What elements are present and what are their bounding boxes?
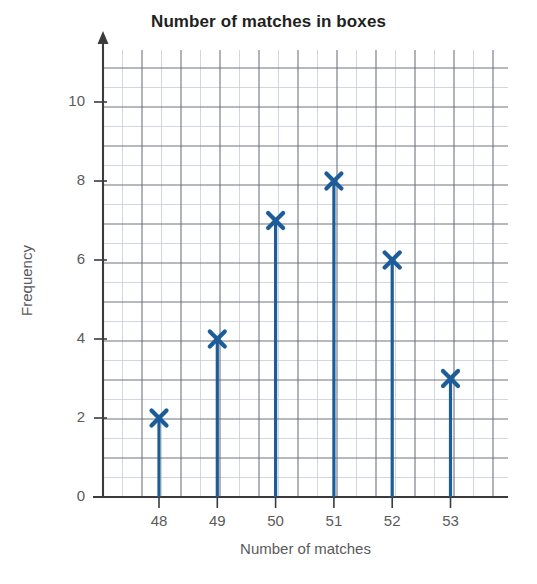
- x-tick-marks: [159, 497, 451, 508]
- x-tick-label: 50: [256, 512, 296, 529]
- y-tick-label: 6: [45, 250, 85, 267]
- y-tick-label: 8: [45, 171, 85, 188]
- x-tick-label: 53: [431, 512, 471, 529]
- grid-minor-lines: [103, 50, 508, 497]
- y-axis-arrow-icon: [98, 31, 109, 44]
- y-tick-label: 4: [45, 329, 85, 346]
- x-tick-label: 48: [139, 512, 179, 529]
- x-tick-label: 52: [372, 512, 412, 529]
- y-tick-label: 10: [45, 92, 85, 109]
- grid-major-lines: [103, 50, 508, 497]
- x-tick-label: 51: [314, 512, 354, 529]
- axis-lines: [93, 31, 508, 497]
- chart-container: Number of matches in boxes Frequency Num…: [0, 0, 537, 584]
- y-tick-marks: [94, 102, 107, 497]
- y-tick-label: 0: [45, 487, 85, 504]
- y-tick-label: 2: [45, 408, 85, 425]
- data-series: [152, 174, 459, 498]
- x-tick-label: 49: [197, 512, 237, 529]
